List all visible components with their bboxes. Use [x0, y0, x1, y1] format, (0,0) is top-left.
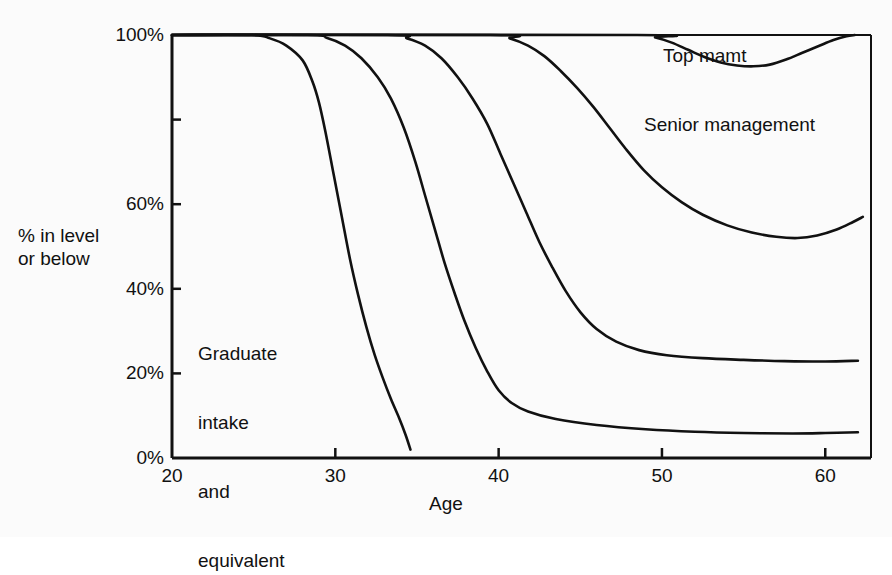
y-axis-title: % in level or below [18, 224, 99, 270]
y-axis-title-line-1: % in level [18, 224, 99, 247]
annotation-graduate-line-3: and [198, 480, 285, 503]
y-axis-tick-label: 100% [115, 25, 164, 44]
x-axis-tick-label: 50 [622, 466, 702, 485]
y-axis-tick-label: 0% [137, 448, 164, 467]
x-axis-title: Age [0, 492, 892, 515]
annotation-graduate-line-2: intake [198, 411, 285, 434]
y-axis-title-line-2: or below [18, 247, 99, 270]
y-axis-tick-label: 60% [126, 194, 164, 213]
annotation-senior-management: Senior management [644, 113, 815, 136]
annotation-top-management: Top mamt [663, 44, 746, 67]
annotation-graduate-line-4: equivalent [198, 549, 285, 572]
x-axis-tick-label: 60 [785, 466, 865, 485]
x-axis-tick-label: 40 [459, 466, 539, 485]
annotation-graduate-line-1: Graduate [198, 342, 285, 365]
x-axis-tick-label: 30 [295, 466, 375, 485]
y-axis-tick-label: 20% [126, 363, 164, 382]
y-axis-tick-label: 40% [126, 279, 164, 298]
annotation-graduate-intake: Graduate intake and equivalent [198, 296, 285, 575]
